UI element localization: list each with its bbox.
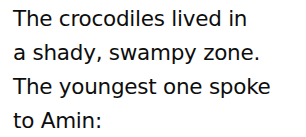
text-line-2: a shady, swampy zone.	[13, 36, 305, 70]
text-line-1: The crocodiles lived in	[13, 2, 305, 36]
text-line-4: to Amin:	[13, 104, 305, 137]
page-canvas: The crocodiles lived in a shady, swampy …	[0, 0, 306, 137]
story-passage: The crocodiles lived in a shady, swampy …	[13, 2, 305, 137]
text-line-3: The youngest one spoke	[13, 70, 305, 104]
